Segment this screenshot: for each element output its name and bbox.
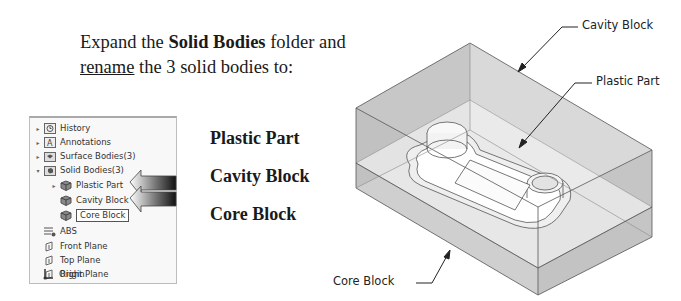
- mold-assembly-diagram: [0, 0, 681, 301]
- callout-plastic-part: Plastic Part: [596, 74, 660, 88]
- callout-cavity-block: Cavity Block: [582, 18, 653, 32]
- callout-core-block: Core Block: [333, 274, 394, 288]
